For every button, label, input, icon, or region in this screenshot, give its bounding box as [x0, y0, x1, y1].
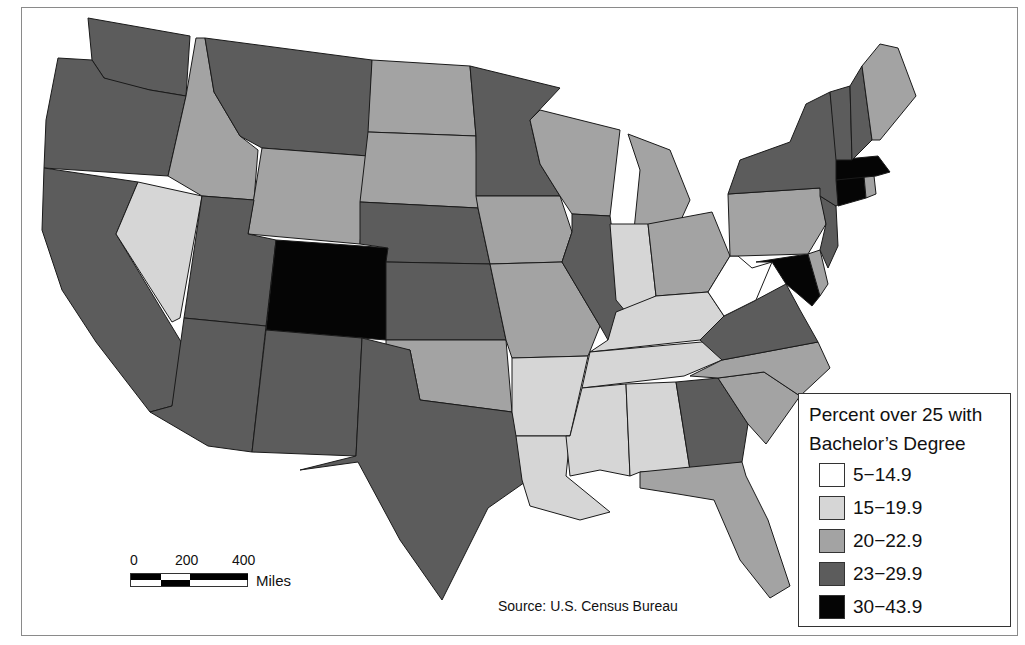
scale-bar: 0 200 400 Miles [130, 552, 291, 589]
legend-label: 20−22.9 [853, 530, 922, 552]
legend-title-line2: Bachelor’s Degree [809, 429, 1010, 458]
legend-swatch [819, 529, 845, 553]
state-ri [864, 176, 876, 198]
legend-swatch [819, 595, 845, 619]
state-ct [836, 176, 866, 206]
map-legend: Percent over 25 with Bachelor’s Degree 5… [798, 393, 1011, 627]
state-co [266, 240, 390, 340]
state-nm [252, 330, 362, 456]
legend-item: 20−22.9 [819, 524, 1010, 557]
legend-item: 5−14.9 [819, 458, 1010, 491]
legend-item: 30−43.9 [819, 590, 1010, 623]
state-ks [386, 262, 506, 340]
state-pa [728, 188, 826, 256]
state-nj [820, 196, 838, 268]
legend-title-line1: Percent over 25 with [809, 400, 1010, 429]
scale-tick-0: 0 [130, 552, 138, 568]
legend-item: 23−29.9 [819, 557, 1010, 590]
state-wy [248, 148, 368, 244]
legend-swatch [819, 463, 845, 487]
legend-label: 15−19.9 [853, 497, 922, 519]
legend-swatch [819, 496, 845, 520]
scale-ticks: 0 200 400 [130, 552, 280, 570]
scale-tick-400: 400 [232, 552, 255, 568]
state-ia [476, 196, 572, 264]
state-sd [360, 132, 478, 208]
legend-label: 5−14.9 [853, 464, 912, 486]
state-mi [628, 134, 690, 230]
legend-swatch [819, 562, 845, 586]
state-me [862, 44, 916, 140]
scale-tick-200: 200 [175, 552, 198, 568]
source-credit: Source: U.S. Census Bureau [498, 598, 678, 614]
state-fl [640, 462, 790, 598]
legend-item: 15−19.9 [819, 491, 1010, 524]
scale-unit: Miles [256, 572, 291, 589]
state-nd [368, 60, 476, 136]
scale-bar-graphic [130, 573, 248, 587]
legend-label: 23−29.9 [853, 563, 922, 585]
legend-label: 30−43.9 [853, 596, 922, 618]
